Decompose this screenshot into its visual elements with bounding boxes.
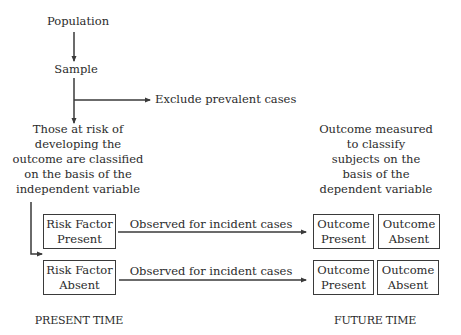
box-line: Present [321,278,366,293]
row2-outcome-present-box: Outcome Present [313,260,374,295]
future-time-label: FUTURE TIME [334,313,416,328]
cohort-study-diagram: Population Sample Exclude prevalent case… [0,0,461,335]
risk-factor-present-box: Risk Factor Present [43,214,116,249]
box-line: Risk Factor [46,217,112,232]
box-line: Risk Factor [46,263,112,278]
present-time-label: PRESENT TIME [35,313,123,328]
at-risk-line: Those at risk of [13,122,144,137]
at-risk-line: developing the [13,137,144,152]
risk-factor-absent-box: Risk Factor Absent [43,260,116,295]
outcome-measured-line: subjects on the [319,152,433,167]
arrow-at-risk-to-groups [31,202,42,254]
outcome-measured-line: Outcome measured [319,122,433,137]
box-line: Present [57,232,102,247]
row1-observation-label: Observed for incident cases [130,217,293,232]
box-line: Absent [59,278,99,293]
at-risk-description: Those at risk of developing the outcome … [13,122,144,197]
box-line: Present [321,232,366,247]
at-risk-line: independent variable [13,182,144,197]
box-line: Absent [388,278,428,293]
outcome-measured-description: Outcome measured to classify subjects on… [319,122,433,197]
box-line: Outcome [317,263,370,278]
row1-outcome-present-box: Outcome Present [313,214,374,249]
box-line: Absent [389,232,429,247]
row1-outcome-absent-box: Outcome Absent [378,214,440,249]
box-line: Outcome [382,263,435,278]
sample-label: Sample [54,62,97,77]
box-line: Outcome [317,217,370,232]
at-risk-line: outcome are classified [13,152,144,167]
outcome-measured-line: dependent variable [319,182,433,197]
outcome-measured-line: basis of the [319,167,433,182]
population-label: Population [47,14,109,29]
outcome-measured-line: to classify [319,137,433,152]
exclude-prevalent-label: Exclude prevalent cases [155,92,296,107]
row2-observation-label: Observed for incident cases [130,264,293,279]
at-risk-line: on the basis of the [13,167,144,182]
row2-outcome-absent-box: Outcome Absent [377,260,439,295]
box-line: Outcome [383,217,436,232]
